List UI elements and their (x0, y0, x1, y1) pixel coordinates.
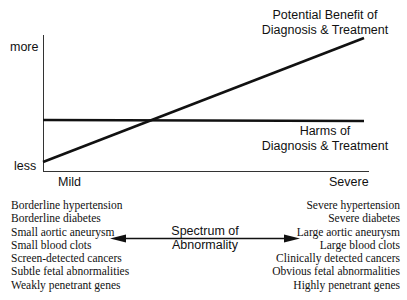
list-item: Severe hypertension (250, 199, 400, 212)
list-item: Large blood clots (250, 239, 400, 252)
list-item: Severe diabetes (250, 212, 400, 225)
list-item: Small aortic aneurysm (11, 226, 129, 239)
harms-label-line2: Diagnosis & Treatment (255, 139, 395, 154)
spectrum-label-line2: Abnormality (150, 238, 260, 252)
x-label-mild: Mild (58, 175, 81, 189)
x-label-severe: Severe (329, 175, 369, 189)
list-item: Obvious fetal abnormalities (250, 265, 400, 278)
y-label-more: more (10, 40, 38, 54)
list-item: Borderline diabetes (11, 212, 129, 225)
list-item: Clinically detected cancers (250, 252, 400, 265)
benefit-label-line1: Potential Benefit of (255, 8, 395, 23)
list-item: Screen-detected cancers (11, 252, 129, 265)
benefit-label: Potential Benefit of Diagnosis & Treatme… (255, 8, 395, 38)
benefit-label-line2: Diagnosis & Treatment (255, 23, 395, 38)
spectrum-label: Spectrum of Abnormality (150, 224, 260, 252)
severe-examples-list: Severe hypertension Severe diabetes Larg… (250, 199, 400, 292)
list-item: Highly penetrant genes (250, 279, 400, 292)
spectrum-label-line1: Spectrum of (150, 224, 260, 238)
list-item: Borderline hypertension (11, 199, 129, 212)
harms-label-line1: Harms of (255, 124, 395, 139)
harms-line (43, 120, 364, 121)
list-item: Large aortic aneurysm (250, 226, 400, 239)
mild-examples-list: Borderline hypertension Borderline diabe… (11, 199, 129, 292)
list-item: Subtle fetal abnormalities (11, 265, 129, 278)
list-item: Weakly penetrant genes (11, 279, 129, 292)
list-item: Small blood clots (11, 239, 129, 252)
harms-label: Harms of Diagnosis & Treatment (255, 124, 395, 154)
y-label-less: less (14, 159, 36, 173)
